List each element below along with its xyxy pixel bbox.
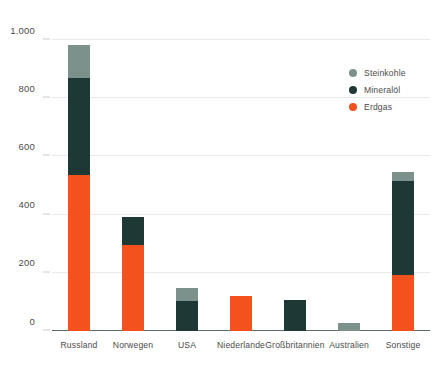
bar-segment-minerall[interactable] xyxy=(176,301,198,331)
legend-item-minerall[interactable]: Mineralöl xyxy=(349,85,406,95)
bar-australien[interactable] xyxy=(338,323,360,331)
bar-segment-steinkohle[interactable] xyxy=(392,172,414,181)
legend-item-steinkohle[interactable]: Steinkohle xyxy=(349,68,406,78)
gridline-200 xyxy=(52,272,430,273)
bar-segment-minerall[interactable] xyxy=(392,181,414,276)
stacked-bar-chart: 02004006008001.000 RusslandNorwegenUSANi… xyxy=(0,0,441,370)
legend-swatch-icon xyxy=(349,103,357,111)
bar-segment-erdgas[interactable] xyxy=(122,245,144,331)
bar-segment-steinkohle[interactable] xyxy=(68,45,90,78)
legend-label: Erdgas xyxy=(364,102,392,112)
x-axis-tick-label: Großbritannien xyxy=(265,340,324,350)
y-tick-mark-1000 xyxy=(43,39,50,40)
bar-großbritannien[interactable] xyxy=(284,300,306,331)
bar-segment-erdgas[interactable] xyxy=(230,296,252,331)
plot-area: 02004006008001.000 xyxy=(52,20,430,331)
bar-usa[interactable] xyxy=(176,288,198,331)
y-tick-mark-600 xyxy=(43,155,50,156)
bar-segment-minerall[interactable] xyxy=(122,217,144,245)
x-axis-tick-label: Australien xyxy=(329,340,369,350)
y-axis-tick-label: 800 xyxy=(0,82,35,93)
x-axis-tick-label: USA xyxy=(178,340,196,350)
bar-segment-erdgas[interactable] xyxy=(68,175,90,331)
legend-swatch-icon xyxy=(349,86,357,94)
y-tick-mark-400 xyxy=(43,213,50,214)
bar-russland[interactable] xyxy=(68,45,90,331)
x-axis-tick-label: Niederlande xyxy=(217,340,265,350)
bar-niederlande[interactable] xyxy=(230,296,252,331)
gridline-1000 xyxy=(52,39,430,40)
bar-norwegen[interactable] xyxy=(122,217,144,331)
bar-segment-minerall[interactable] xyxy=(68,78,90,175)
y-tick-mark-200 xyxy=(43,271,50,272)
y-tick-mark-800 xyxy=(43,97,50,98)
legend-item-erdgas[interactable]: Erdgas xyxy=(349,102,406,112)
legend-label: Steinkohle xyxy=(364,68,406,78)
x-axis-tick-label: Russland xyxy=(60,340,97,350)
y-axis-tick-label: 1.000 xyxy=(0,24,35,35)
gridline-600 xyxy=(52,155,430,156)
bar-segment-erdgas[interactable] xyxy=(392,275,414,331)
legend-swatch-icon xyxy=(349,69,357,77)
bar-sonstige[interactable] xyxy=(392,172,414,331)
y-axis-tick-label: 0 xyxy=(0,315,35,326)
x-axis-tick-label: Norwegen xyxy=(113,340,153,350)
y-axis-tick-label: 400 xyxy=(0,199,35,210)
legend-label: Mineralöl xyxy=(364,85,400,95)
bar-segment-steinkohle[interactable] xyxy=(338,323,360,331)
gridline-400 xyxy=(52,214,430,215)
chart-legend: SteinkohleMineralölErdgas xyxy=(349,68,406,112)
y-axis-tick-label: 600 xyxy=(0,140,35,151)
x-axis-tick-label: Sonstige xyxy=(386,340,421,350)
y-axis-tick-label: 200 xyxy=(0,257,35,268)
bar-segment-minerall[interactable] xyxy=(284,300,306,331)
y-tick-mark-0 xyxy=(43,330,50,331)
bar-segment-steinkohle[interactable] xyxy=(176,288,198,301)
